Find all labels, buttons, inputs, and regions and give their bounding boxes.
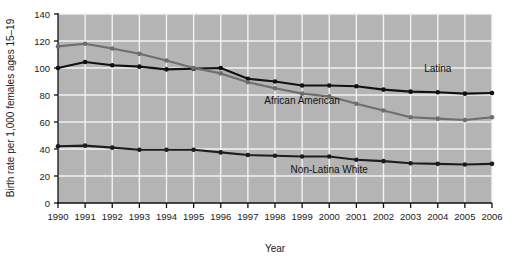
x-tick-label: 1996 xyxy=(210,211,231,222)
y-tick-label: 40 xyxy=(39,144,50,155)
birth-rate-line-chart: 020406080100120140 199019911992199319941… xyxy=(0,0,517,263)
data-point xyxy=(327,83,332,88)
data-point xyxy=(218,71,223,76)
y-tick-label: 140 xyxy=(34,9,50,20)
x-tick-label: 1992 xyxy=(102,211,123,222)
y-axis-title: Birth rate per 1,000 females ages 15–19 xyxy=(5,18,16,197)
data-point xyxy=(435,116,440,121)
data-point xyxy=(354,158,359,163)
data-point xyxy=(300,83,305,88)
data-point xyxy=(56,66,61,71)
data-point xyxy=(110,46,115,51)
x-tick-label: 2002 xyxy=(373,211,394,222)
data-point xyxy=(191,147,196,152)
y-tick-label: 80 xyxy=(39,90,50,101)
data-point xyxy=(463,118,468,123)
chart-canvas: 020406080100120140 199019911992199319941… xyxy=(0,0,517,263)
data-point xyxy=(246,80,251,85)
x-tick-label: 1994 xyxy=(156,211,177,222)
y-tick-label: 20 xyxy=(39,171,50,182)
data-point xyxy=(300,154,305,159)
data-point xyxy=(83,143,88,148)
x-tick-label: 1995 xyxy=(183,211,204,222)
series-label-non-latina-white: Non-Latina White xyxy=(291,164,369,175)
data-point xyxy=(381,159,386,164)
series-label-latina: Latina xyxy=(424,63,452,74)
data-point xyxy=(381,87,386,92)
data-point xyxy=(435,162,440,167)
data-point xyxy=(164,147,169,152)
data-point xyxy=(327,154,332,159)
data-point xyxy=(490,162,495,167)
data-point xyxy=(56,44,61,49)
data-point xyxy=(408,89,413,94)
y-tick-label: 120 xyxy=(34,36,50,47)
data-point xyxy=(110,63,115,68)
x-tick-label: 2004 xyxy=(427,211,448,222)
x-axis-title: Year xyxy=(265,243,286,254)
x-tick-label: 2006 xyxy=(481,211,502,222)
data-point xyxy=(137,64,142,69)
data-point xyxy=(273,153,278,158)
data-point xyxy=(354,84,359,89)
x-tick-label: 1997 xyxy=(237,211,258,222)
data-point xyxy=(435,90,440,95)
x-tick-label: 2001 xyxy=(346,211,367,222)
y-tick-label: 60 xyxy=(39,117,50,128)
data-point xyxy=(354,101,359,106)
data-point xyxy=(408,161,413,166)
data-point xyxy=(137,147,142,152)
data-point xyxy=(56,144,61,149)
data-point xyxy=(218,66,223,71)
x-tick-label: 1991 xyxy=(75,211,96,222)
x-tick-label: 2003 xyxy=(400,211,421,222)
data-point xyxy=(273,79,278,84)
x-tick-label: 1990 xyxy=(47,211,68,222)
data-point xyxy=(83,41,88,46)
data-point xyxy=(218,150,223,155)
data-point xyxy=(490,115,495,120)
data-point xyxy=(110,145,115,150)
y-tick-label: 0 xyxy=(45,198,50,209)
series-label-african-american: African American xyxy=(264,95,340,106)
x-tick-label: 1993 xyxy=(129,211,150,222)
data-point xyxy=(273,86,278,91)
data-point xyxy=(246,153,251,158)
x-tick-label: 2000 xyxy=(319,211,340,222)
data-point xyxy=(408,115,413,120)
data-point xyxy=(137,52,142,57)
x-tick-label: 1999 xyxy=(292,211,313,222)
x-tick-label: 2005 xyxy=(454,211,475,222)
data-point xyxy=(83,60,88,65)
data-point xyxy=(463,162,468,167)
x-tick-label: 1998 xyxy=(264,211,285,222)
data-point xyxy=(191,66,196,71)
data-point xyxy=(164,67,169,72)
y-tick-label: 100 xyxy=(34,63,50,74)
data-point xyxy=(490,91,495,96)
data-point xyxy=(164,58,169,63)
data-point xyxy=(381,108,386,113)
data-point xyxy=(463,91,468,96)
